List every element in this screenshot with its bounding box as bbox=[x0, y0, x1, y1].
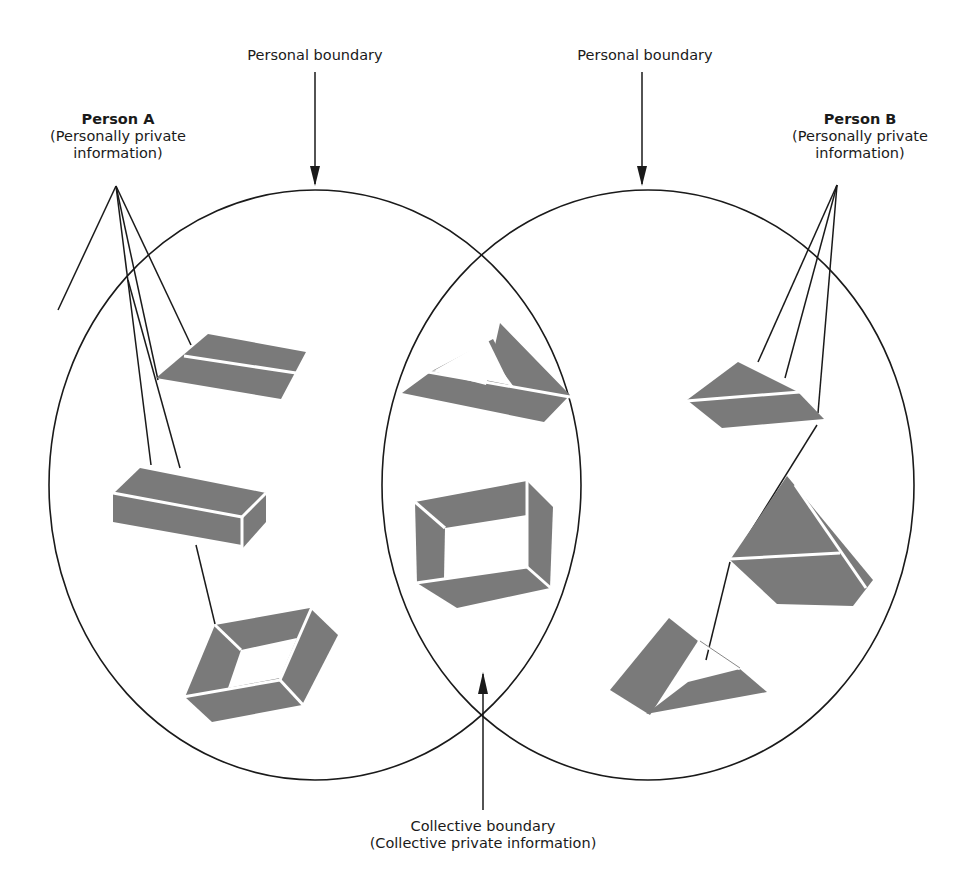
person-a-desc-line1: (Personally private bbox=[28, 128, 208, 145]
collective-boundary-title: Collective boundary bbox=[363, 818, 603, 835]
shape-triangle-frame-open bbox=[610, 618, 767, 715]
personal-boundary-right-text: Personal boundary bbox=[555, 47, 735, 64]
personal-boundary-left-text: Personal boundary bbox=[225, 47, 405, 64]
arrowhead-icon bbox=[478, 672, 488, 694]
person-b-name: Person B bbox=[770, 111, 950, 128]
person-a-desc-line2: information) bbox=[28, 145, 208, 162]
person-a-leader-lines bbox=[58, 186, 215, 624]
personal-boundary-left-label: Personal boundary bbox=[225, 47, 405, 64]
person-a-label: Person A (Personally private information… bbox=[28, 111, 208, 162]
shape-flat-parallelogram bbox=[156, 334, 306, 399]
person-b-desc-line2: information) bbox=[770, 145, 950, 162]
shape-rectangle-frame-collective bbox=[415, 480, 553, 608]
collective-boundary-label: Collective boundary (Collective private … bbox=[363, 818, 603, 852]
person-b-desc-line1: (Personally private bbox=[770, 128, 950, 145]
shape-rectangular-block bbox=[113, 468, 266, 549]
arrowhead-icon bbox=[637, 166, 647, 186]
shape-diamond-frame bbox=[183, 607, 338, 722]
personal-boundary-right-label: Personal boundary bbox=[555, 47, 735, 64]
shape-wedge bbox=[686, 362, 824, 428]
shape-pyramid bbox=[730, 476, 873, 606]
arrowhead-icon bbox=[310, 166, 320, 186]
person-a-name: Person A bbox=[28, 111, 208, 128]
person-b-label: Person B (Personally private information… bbox=[770, 111, 950, 162]
collective-boundary-desc: (Collective private information) bbox=[363, 835, 603, 852]
